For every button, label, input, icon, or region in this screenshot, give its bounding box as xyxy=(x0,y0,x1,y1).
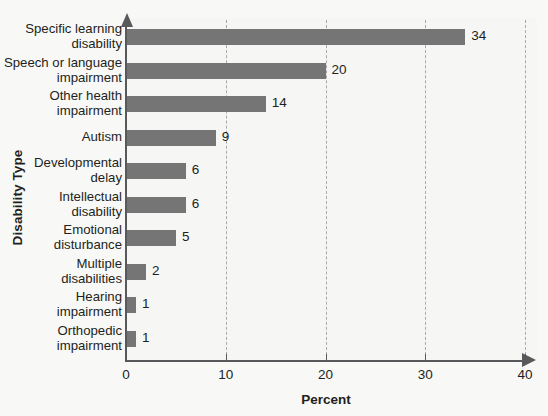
bar-value-label: 34 xyxy=(471,28,486,44)
category-label: Multipledisabilities xyxy=(0,256,122,286)
category-label-line: Hearing xyxy=(0,289,122,304)
x-tick-10 xyxy=(226,354,227,361)
category-label-line: Orthopedic xyxy=(0,323,122,338)
category-label-line: Multiple xyxy=(0,256,122,271)
bar xyxy=(126,163,186,179)
y-axis-line xyxy=(125,22,127,360)
bar-value-label: 5 xyxy=(182,229,190,245)
bar xyxy=(126,297,136,313)
bar-value-label: 20 xyxy=(332,62,347,78)
bar-value-label: 6 xyxy=(192,196,200,212)
bar xyxy=(126,331,136,347)
gridline-20 xyxy=(326,20,327,360)
category-label: Autism xyxy=(0,129,122,144)
category-label-line: Other health xyxy=(0,88,122,103)
category-label-line: Specific learning xyxy=(0,21,122,36)
x-axis-title: Percent xyxy=(126,392,526,407)
category-label-line: Developmental xyxy=(0,155,122,170)
category-axis-labels: Specific learningdisabilitySpeech or lan… xyxy=(0,18,122,360)
bar xyxy=(126,130,216,146)
bar xyxy=(126,197,186,213)
category-label-line: disability xyxy=(0,36,122,51)
category-label-line: Autism xyxy=(0,129,122,144)
bar-value-label: 1 xyxy=(142,296,150,312)
category-label-line: disability xyxy=(0,204,122,219)
x-axis-line xyxy=(125,360,524,362)
bar-value-label: 2 xyxy=(152,263,160,279)
category-label: Specific learningdisability xyxy=(0,21,122,51)
category-label: Developmentaldelay xyxy=(0,155,122,185)
x-tick-40 xyxy=(525,354,526,361)
category-label-line: impairment xyxy=(0,70,122,85)
bar xyxy=(126,63,326,79)
category-label: Emotionaldisturbance xyxy=(0,222,122,252)
category-label: Intellectualdisability xyxy=(0,189,122,219)
x-tick-30 xyxy=(425,354,426,361)
bar-chart: Disability Type Specific learningdisabil… xyxy=(0,0,548,416)
bar-value-label: 14 xyxy=(272,95,287,111)
x-tick-0 xyxy=(126,354,127,361)
y-axis-arrow-icon xyxy=(121,13,133,27)
x-tick-label-10: 10 xyxy=(206,367,246,382)
plot-area: 3420149665211 010203040 xyxy=(126,18,537,360)
bar-value-label: 1 xyxy=(142,330,150,346)
category-label-line: impairment xyxy=(0,304,122,319)
category-label-line: delay xyxy=(0,170,122,185)
category-label-line: disturbance xyxy=(0,237,122,252)
x-tick-label-0: 0 xyxy=(106,367,146,382)
bar-value-label: 6 xyxy=(192,162,200,178)
bar xyxy=(126,29,465,45)
category-label: Speech or languageimpairment xyxy=(0,55,122,85)
bar xyxy=(126,264,146,280)
category-label-line: disabilities xyxy=(0,271,122,286)
category-label-line: impairment xyxy=(0,338,122,353)
category-label: Orthopedicimpairment xyxy=(0,323,122,353)
bar-value-label: 9 xyxy=(222,129,230,145)
bar xyxy=(126,96,266,112)
category-label-line: Intellectual xyxy=(0,189,122,204)
category-label-line: impairment xyxy=(0,103,122,118)
x-tick-label-20: 20 xyxy=(306,367,346,382)
category-label: Hearingimpairment xyxy=(0,289,122,319)
bar xyxy=(126,230,176,246)
x-tick-20 xyxy=(326,354,327,361)
category-label-line: Speech or language xyxy=(0,55,122,70)
category-label: Other healthimpairment xyxy=(0,88,122,118)
gridline-40 xyxy=(525,20,526,360)
x-tick-label-30: 30 xyxy=(405,367,445,382)
category-label-line: Emotional xyxy=(0,222,122,237)
gridline-30 xyxy=(425,20,426,360)
x-tick-label-40: 40 xyxy=(505,367,545,382)
